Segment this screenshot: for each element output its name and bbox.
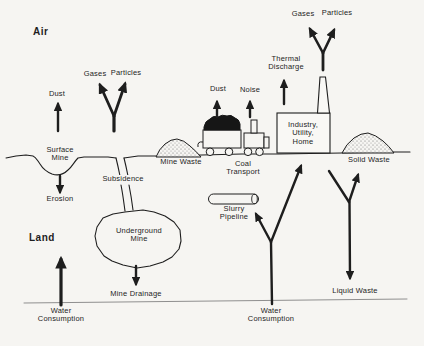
coal-car-body <box>203 130 241 148</box>
plant-gases-particles-arrow <box>310 29 334 70</box>
mine-dust-label: Dust <box>49 90 65 98</box>
wheel <box>206 148 214 156</box>
liquid-waste-label: Liquid Waste <box>332 287 377 295</box>
water-consumption-plant-arrow <box>256 166 301 304</box>
locomotive-stack <box>251 120 257 133</box>
mine-gases-particles-arrow <box>100 84 125 131</box>
subsidence-shaft-left-line <box>116 158 125 211</box>
coal-transport-label: Coal Transport <box>226 160 260 177</box>
industry-utility-home-label: Industry, Utility, Home <box>288 121 318 146</box>
subsidence-shaft-right-line <box>124 158 133 210</box>
coal-heap <box>204 115 240 130</box>
locomotive-nose <box>264 137 269 148</box>
transport-dust-label: Dust <box>210 85 226 93</box>
water-consumption-plant-label: Water Consumption <box>248 307 294 324</box>
coal-train <box>198 115 269 155</box>
plant-gases-label: Gases <box>292 10 315 18</box>
mine-drainage-label: Mine Drainage <box>110 290 161 298</box>
slurry-pipeline-label: Slurry Pipeline <box>220 205 248 222</box>
thermal-discharge-label: Thermal Discharge <box>268 55 304 72</box>
pipe-body <box>209 194 259 204</box>
mine-waste-label: Mine Waste <box>160 158 201 166</box>
solid-waste-label: Solid Waste <box>348 156 390 164</box>
mine-waste-pile <box>156 139 201 157</box>
mine-gases-label: Gases <box>84 70 107 78</box>
underground-mine-label: Underground Mine <box>116 227 162 244</box>
water-consumption-mine-label: Water Consumption <box>38 307 84 324</box>
land-region-label: Land <box>29 232 55 243</box>
wheel <box>256 148 264 156</box>
erosion-label: Erosion <box>47 195 74 203</box>
air-region-label: Air <box>33 26 48 37</box>
slurry-pipeline-shape <box>209 194 259 204</box>
subsidence-label: Subsidence <box>101 175 144 183</box>
transport-noise-label: Noise <box>240 86 260 94</box>
mine-particles-label: Particles <box>111 69 142 77</box>
solid-liquid-waste-split-arrow <box>329 171 358 278</box>
locomotive-cab <box>244 133 264 148</box>
wheel <box>244 148 252 156</box>
wheel <box>225 148 233 156</box>
water-table-line <box>24 299 407 303</box>
coupler-hook <box>198 142 203 147</box>
smokestack <box>318 77 330 113</box>
surface-mine-label: Surface Mine <box>46 146 73 163</box>
coal-cycle-diagram: Air Land Gases Particles Dust Surface Mi… <box>0 0 424 346</box>
plant-particles-label: Particles <box>322 9 353 17</box>
solid-waste-pile <box>342 133 394 153</box>
